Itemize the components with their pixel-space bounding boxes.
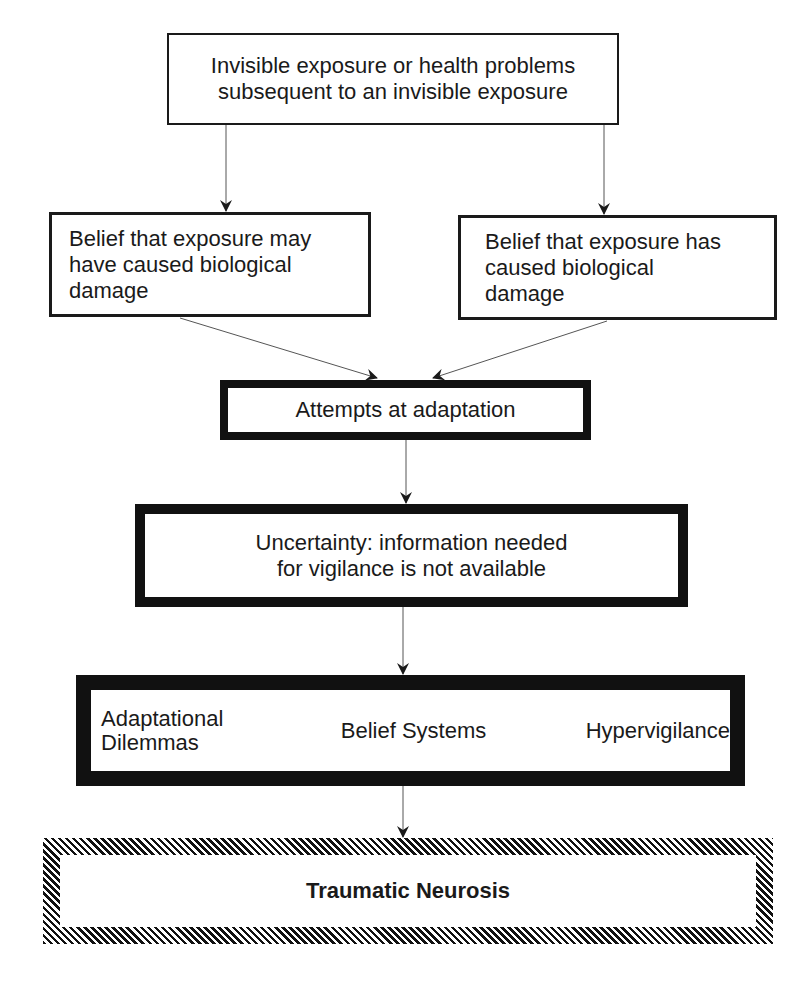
node-belief-has-caused: Belief that exposure has caused biologic… [458,215,777,320]
node-inner: Traumatic Neurosis [60,855,756,927]
node-text: Invisible exposure or health problems su… [211,53,575,105]
node-text: Traumatic Neurosis [306,878,510,904]
node-text: Belief that exposure may have caused bio… [69,226,311,304]
outcome-hypervigilance: Hypervigilance [586,719,730,743]
outcome-belief-systems: Belief Systems [341,719,487,743]
node-outcomes: Adaptational Dilemmas Belief Systems Hyp… [76,675,745,786]
node-traumatic-neurosis: Traumatic Neurosis [43,838,773,944]
outcome-adaptational-dilemmas: Adaptational Dilemmas [101,707,223,755]
node-belief-may-have-caused: Belief that exposure may have caused bio… [49,212,371,317]
node-text: Uncertainty: information needed for vigi… [256,530,568,582]
node-text: Belief that exposure has caused biologic… [485,229,721,307]
node-attempts-at-adaptation: Attempts at adaptation [220,380,591,440]
node-uncertainty: Uncertainty: information needed for vigi… [135,504,688,607]
node-text: Attempts at adaptation [295,397,515,423]
arrow-belief-may-to-adaptation [180,318,377,378]
arrow-belief-has-to-adaptation [433,321,607,378]
node-invisible-exposure: Invisible exposure or health problems su… [167,33,619,125]
